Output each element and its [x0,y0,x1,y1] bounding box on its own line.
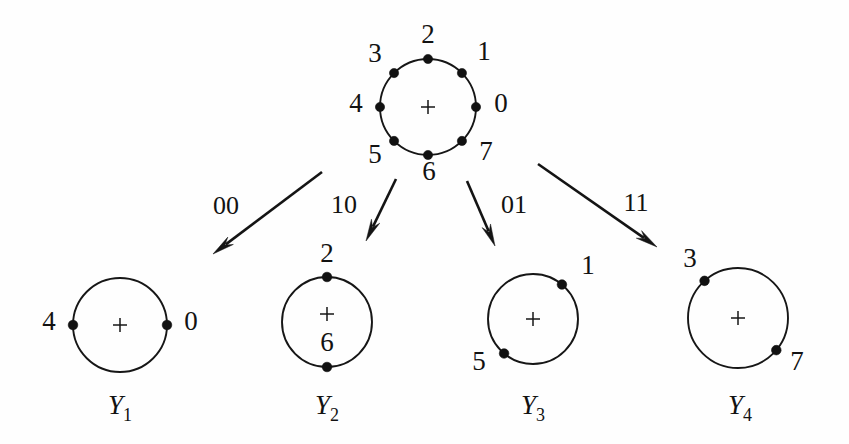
branch-label-00: 00 [213,191,239,220]
subset-name-label-Y4: Y4 [728,390,752,425]
subset-point-label-Y4-7: 7 [790,346,804,376]
subset-signal-point-Y4-7[interactable] [772,345,782,355]
parent-signal-point-0[interactable] [471,102,480,111]
branch-label-11: 11 [623,188,648,217]
branch-arrow-shaft-10 [373,179,396,227]
branch-label-10: 10 [331,190,357,219]
subset-name-label-Y3: Y3 [521,390,545,425]
subset-signal-point-Y4-3[interactable] [700,276,710,286]
subset-point-label-Y3-1: 1 [581,250,595,280]
subset-name-subscript-Y1: 1 [123,405,132,425]
subset-signal-point-Y3-1[interactable] [557,280,567,290]
subset-center-cross-icon-Y3 [526,312,540,326]
parent-signal-point-1[interactable] [457,68,466,77]
subset-group-Y3: 15Y3 [472,250,595,425]
subset-constellations-group: 04Y126Y215Y337Y4 [42,238,804,425]
subset-signal-point-Y1-0[interactable] [162,320,172,330]
subset-name-subscript-Y4: 4 [743,405,752,425]
parent-point-label-4: 4 [349,88,363,118]
parent-signal-point-3[interactable] [389,68,398,77]
subset-name-label-Y1: Y1 [108,390,132,425]
subset-point-label-Y3-5: 5 [472,346,486,376]
parent-signal-point-7[interactable] [457,136,466,145]
set-partitioning-diagram: 01234567 00100111 04Y126Y215Y337Y4 [0,0,849,444]
subset-signal-point-Y2-2[interactable] [322,272,332,282]
branch-arrow-shaft-00 [226,172,322,244]
branch-arrow-shaft-01 [467,181,489,231]
parent-signal-point-5[interactable] [389,136,398,145]
subset-name-label-Y2: Y2 [315,390,339,425]
parent-point-label-1: 1 [477,36,491,66]
subset-center-cross-icon-Y4 [731,311,745,325]
constellation-canvas: 01234567 00100111 04Y126Y215Y337Y4 [0,0,849,444]
subset-center-cross-icon-Y2 [320,307,334,321]
branch-arrow-10 [366,179,396,241]
parent-constellation-group: 01234567 [349,19,508,186]
subset-point-label-Y2-6: 6 [320,327,334,357]
parent-point-label-3: 3 [368,38,382,68]
parent-signal-point-4[interactable] [375,102,384,111]
branch-arrow-head-01 [482,224,495,246]
parent-point-label-5: 5 [368,139,382,169]
branch-arrow-01 [467,181,495,246]
subset-point-label-Y1-4: 4 [42,306,56,336]
parent-point-label-7: 7 [479,136,493,166]
parent-signal-point-2[interactable] [423,54,432,63]
parent-point-label-6: 6 [422,156,436,186]
subset-point-label-Y2-2: 2 [320,238,334,268]
subset-group-Y2: 26Y2 [282,238,372,425]
parent-point-label-0: 0 [494,88,508,118]
subset-group-Y4: 37Y4 [683,243,804,425]
parent-point-label-2: 2 [421,19,435,49]
subset-group-Y1: 04Y1 [42,278,198,425]
branch-arrow-head-11 [636,231,657,247]
subset-point-label-Y4-3: 3 [683,243,697,273]
subset-signal-point-Y3-5[interactable] [499,349,509,359]
parent-center-cross-icon [421,100,435,114]
subset-name-subscript-Y3: 3 [536,405,545,425]
subset-center-cross-icon-Y1 [113,318,127,332]
subset-signal-point-Y2-6[interactable] [322,362,332,372]
subset-signal-point-Y1-4[interactable] [68,320,78,330]
branch-label-01: 01 [501,190,527,219]
subset-name-subscript-Y2: 2 [330,405,339,425]
branch-arrow-head-10 [366,219,380,241]
subset-point-label-Y1-0: 0 [184,306,198,336]
